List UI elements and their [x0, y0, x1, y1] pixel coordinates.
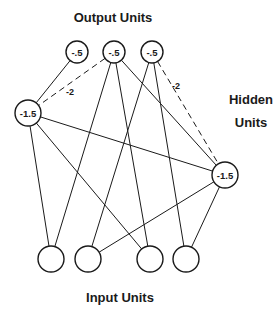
unit-threshold: -.5 — [71, 47, 83, 58]
unit-circle — [137, 246, 163, 272]
input-units-label: Input Units — [86, 290, 154, 305]
input-unit-i1 — [38, 246, 64, 272]
unit-circle — [75, 246, 101, 272]
network-diagram: -.5-.5-.5-1.5-1.5 -2-2 Output Units Hidd… — [0, 0, 276, 315]
connection-o3-h2 — [158, 62, 219, 164]
hidden-units-label-line1: Hidden — [229, 92, 273, 107]
weight-labels: -2-2 — [66, 81, 180, 97]
unit-threshold: -.5 — [108, 47, 120, 58]
connection-o2-h1 — [39, 58, 105, 105]
weight-label: -2 — [66, 87, 74, 97]
unit-circle — [173, 246, 199, 272]
output-unit-o1: -.5 — [66, 41, 88, 63]
connection-h1-i3 — [36, 123, 141, 249]
unit-threshold: -.5 — [146, 47, 158, 58]
unit-circle — [38, 246, 64, 272]
connection-h2-i4 — [192, 187, 220, 247]
connections — [30, 58, 220, 252]
output-unit-o3: -.5 — [141, 41, 163, 63]
input-unit-i2 — [75, 246, 101, 272]
diagram-svg: -.5-.5-.5-1.5-1.5 -2-2 Output Units Hidd… — [0, 0, 276, 315]
units: -.5-.5-.5-1.5-1.5 — [15, 41, 238, 272]
hidden-unit-h1: -1.5 — [15, 100, 41, 126]
unit-threshold: -1.5 — [217, 170, 234, 181]
input-unit-i4 — [173, 246, 199, 272]
connection-o2-h2 — [121, 60, 216, 165]
hidden-units-label-line2: Units — [235, 115, 268, 130]
connection-h1-i1 — [30, 126, 49, 246]
input-unit-i3 — [137, 246, 163, 272]
hidden-unit-h2: -1.5 — [212, 162, 238, 188]
weight-label: -2 — [172, 81, 180, 91]
connection-h2-i2 — [99, 182, 214, 252]
unit-threshold: -1.5 — [20, 108, 37, 119]
connection-o1-h1 — [36, 61, 70, 103]
output-units-label: Output Units — [74, 10, 153, 25]
output-unit-o2: -.5 — [103, 41, 125, 63]
